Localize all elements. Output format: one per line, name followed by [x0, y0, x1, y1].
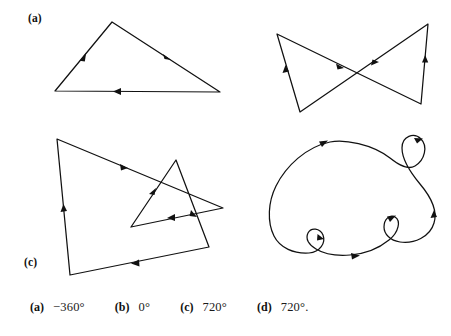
panel-c: (c) — [0, 122, 232, 290]
caption-key-d: (d) — [257, 300, 272, 315]
caption-item-d: (d) 720°. — [257, 300, 309, 315]
arrow-down-right-side-icon — [431, 210, 438, 218]
answer-caption: (a) −360° (b) 0° (c) 720° (d) 720°. — [0, 300, 451, 336]
arrow-bottom-right-loop-icon — [387, 216, 396, 223]
caption-item-c: (c) 720° — [180, 300, 257, 315]
panel-b: (b) — [232, 0, 451, 122]
self-intersecting-polygon-outline — [57, 139, 223, 275]
arrow-right-down-top-icon — [120, 164, 128, 171]
caption-key-c: (c) — [180, 300, 193, 315]
panel-a-drawing — [0, 0, 232, 122]
figure-root: (a) (b) (c) — [0, 0, 451, 336]
arrow-left-bottom-icon — [131, 260, 140, 267]
bowtie-outline — [277, 24, 428, 112]
arrow-right-top-icon — [319, 141, 328, 148]
panel-a: (a) — [0, 0, 232, 122]
caption-value-b: 0° — [138, 300, 150, 315]
caption-item-b: (b) 0° — [115, 300, 180, 315]
caption-value-d: 720°. — [281, 300, 309, 315]
arrow-up-left-icon — [61, 204, 68, 212]
triangle-outline — [55, 22, 220, 92]
panel-d: (d) — [232, 122, 451, 290]
panel-c-drawing — [0, 122, 232, 290]
arrow-up-right-inner-icon — [149, 188, 156, 195]
arrow-up-right-icon — [79, 53, 87, 62]
caption-key-b: (b) — [115, 300, 130, 315]
caption-value-c: 720° — [202, 300, 227, 315]
panel-d-drawing — [232, 122, 451, 290]
caption-key-a: (a) — [30, 300, 44, 315]
panel-b-drawing — [232, 0, 451, 122]
caption-item-a: (a) −360° — [30, 300, 115, 315]
arrow-left-icon — [113, 88, 121, 95]
arrow-up-right-edge-icon — [422, 55, 428, 63]
arrow-top-loop-icon — [414, 138, 423, 144]
caption-value-a: −360° — [53, 300, 85, 315]
looped-curve-outline — [269, 136, 435, 256]
